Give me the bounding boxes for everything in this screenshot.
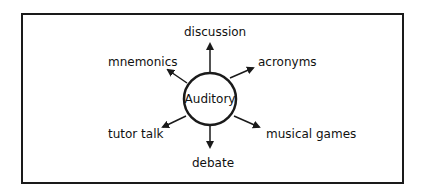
spoke-label-mnemonics: mnemonics — [108, 55, 178, 69]
spoke-label-debate: debate — [192, 156, 234, 170]
arrow-musical-games — [234, 116, 259, 127]
hub-label: Auditory — [184, 92, 236, 106]
spoke-label-musical-games: musical games — [266, 127, 356, 141]
spoke-label-acronyms: acronyms — [258, 55, 317, 69]
spoke-label-tutor-talk: tutor talk — [108, 127, 163, 141]
spoke-label-discussion: discussion — [184, 25, 246, 39]
arrow-mnemonics — [168, 70, 187, 83]
arrow-acronyms — [230, 68, 253, 78]
arrow-tutor-talk — [163, 116, 186, 127]
